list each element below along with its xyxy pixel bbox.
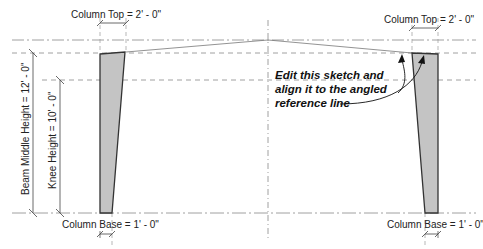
leader-arrow-to-reference-line [398, 60, 405, 93]
left-column-sketch[interactable] [100, 52, 125, 213]
callout-line-1: Edit this sketch and [275, 69, 385, 81]
beam-middle-height-dimension: Beam Middle Height = 12' - 0" [20, 49, 37, 217]
edit-sketch-callout: Edit this sketch and align it to the ang… [275, 54, 425, 109]
callout-line-2: align it to the angled [275, 83, 388, 95]
callout-line-3: reference line [275, 97, 350, 109]
knee-height-label[interactable]: Knee Height = 10' - 0" [47, 91, 58, 189]
beam-middle-height-label[interactable]: Beam Middle Height = 12' - 0" [20, 62, 31, 195]
right-column-sketch[interactable] [412, 53, 438, 213]
left-column-base-dimension: Column Base = 1' - 0" [62, 219, 159, 238]
left-column-top-dimension: Column Top = 2' - 0" [71, 9, 161, 26]
frame-elevation-diagram: Column Top = 2' - 0" Column Top = 2' - 0… [0, 0, 483, 249]
right-column-top-label[interactable]: Column Top = 2' - 0" [384, 14, 474, 25]
arrowhead-icon [398, 54, 405, 63]
left-column-base-label[interactable]: Column Base = 1' - 0" [62, 219, 159, 230]
angled-beam-reference-line [126, 40, 412, 53]
right-column-base-label[interactable]: Column Base = 1' - 0" [387, 219, 483, 230]
right-column-top-dimension: Column Top = 2' - 0" [384, 14, 474, 31]
knee-height-dimension: Knee Height = 10' - 0" [47, 76, 64, 217]
right-column-base-dimension: Column Base = 1' - 0" [387, 219, 483, 238]
left-column-top-label[interactable]: Column Top = 2' - 0" [71, 9, 161, 20]
